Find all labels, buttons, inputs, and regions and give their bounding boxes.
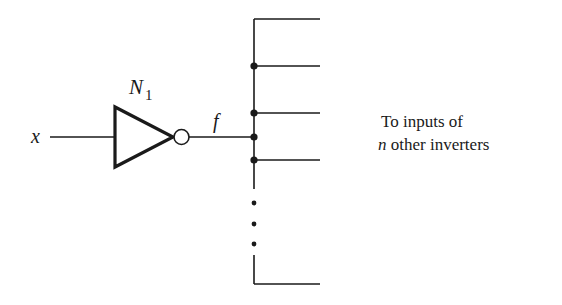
inverter-fanout-diagram: x N 1 f To inputs of n other inverters — [0, 0, 562, 305]
fanout-text-line1: To inputs of — [381, 112, 463, 131]
fanout-text-rest: other inverters — [387, 135, 490, 154]
output-label-f: f — [213, 110, 221, 133]
fanout-text-line2: n other inverters — [378, 135, 489, 154]
inverter-bubble-icon — [174, 130, 189, 145]
input-label-x: x — [30, 125, 40, 147]
ellipsis-dot — [252, 242, 257, 247]
ellipsis-dot — [252, 222, 257, 227]
fanout-var-n: n — [378, 135, 387, 154]
junction-dot — [250, 133, 257, 140]
inverter-triangle-icon — [115, 107, 173, 167]
gate-label-subscript: 1 — [145, 87, 153, 103]
junction-dot — [250, 156, 257, 163]
junction-dot — [250, 109, 257, 116]
junction-dot — [250, 62, 257, 69]
gate-label-n: N — [128, 75, 144, 99]
ellipsis-dot — [252, 201, 257, 206]
